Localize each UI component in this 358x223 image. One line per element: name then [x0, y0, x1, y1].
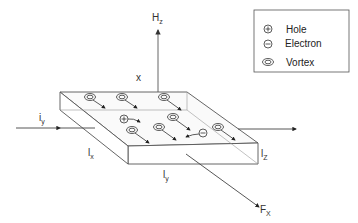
lx-label: lx [88, 147, 94, 160]
iy-label: iy [39, 112, 45, 126]
ly-label: ly [163, 169, 169, 183]
legend: Hole Electron Vortex [254, 10, 349, 72]
legend-label-hole: Hole [286, 24, 307, 35]
hall-effect-vortex-diagram: Hole Electron Vortex Hz x [0, 0, 358, 223]
fx-label: FX [260, 204, 271, 217]
lz-label: lZ [261, 148, 268, 161]
hz-label: Hz [152, 12, 163, 25]
x-label: x [136, 72, 141, 83]
legend-label-vortex: Vortex [286, 57, 314, 68]
legend-label-electron: Electron [285, 38, 322, 49]
